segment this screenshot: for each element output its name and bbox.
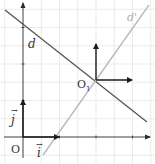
label-origin: O — [11, 143, 20, 156]
coordinate-diagram: d d' O O 1 i → j → — [0, 0, 155, 164]
svg-text:1: 1 — [86, 85, 90, 93]
label-new-origin: O 1 — [77, 78, 90, 93]
label-line-d-prime: d' — [127, 11, 137, 24]
svg-text:j: j — [8, 113, 15, 127]
svg-text:O: O — [77, 78, 86, 91]
line-d — [5, 10, 147, 122]
label-line-d: d — [28, 37, 36, 51]
label-vector-j: j → — [8, 106, 18, 127]
svg-text:→: → — [11, 106, 18, 115]
label-vector-i: i → — [36, 140, 43, 160]
svg-text:→: → — [36, 140, 43, 149]
